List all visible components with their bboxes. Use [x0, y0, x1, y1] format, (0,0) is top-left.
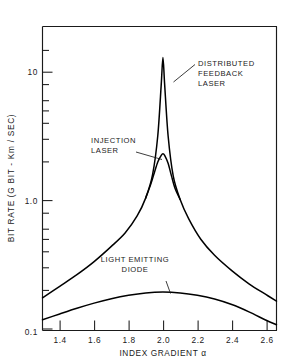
dfb-label-line-3: LASER [198, 79, 226, 88]
led-label-line-2: DIODE [122, 265, 149, 274]
y-tick-label-10: 10 [28, 67, 38, 77]
injection-label-line-2: LASER [91, 146, 119, 155]
dfb-label-line-2: FEEDBACK [198, 69, 243, 78]
x-tick-label-2.0: 2.0 [157, 335, 170, 345]
y-axis-title: BIT RATE (G BIT - Km / SEC) [6, 114, 16, 243]
chart-background [0, 0, 295, 358]
dfb-label-line-1: DISTRIBUTED [198, 59, 255, 68]
x-axis-title: INDEX GRADIENT α [119, 348, 206, 358]
x-tick-label-1.4: 1.4 [53, 335, 66, 345]
x-tick-label-2.2: 2.2 [191, 335, 204, 345]
chart-svg: 10 1.0 0.1 1.4 1.6 1.8 2.0 2.2 2.4 2.6 I… [0, 0, 295, 358]
x-tick-label-2.4: 2.4 [226, 335, 239, 345]
injection-label-line-1: INJECTION [91, 136, 136, 145]
y-tick-label-1: 1.0 [25, 196, 38, 206]
x-tick-label-1.8: 1.8 [122, 335, 135, 345]
x-tick-label-1.6: 1.6 [88, 335, 101, 345]
chart-figure: 10 1.0 0.1 1.4 1.6 1.8 2.0 2.2 2.4 2.6 I… [0, 0, 295, 358]
led-label-line-1: LIGHT EMITTING [101, 255, 169, 264]
x-tick-label-2.6: 2.6 [260, 335, 273, 345]
y-tick-label-0.1: 0.1 [25, 327, 38, 337]
